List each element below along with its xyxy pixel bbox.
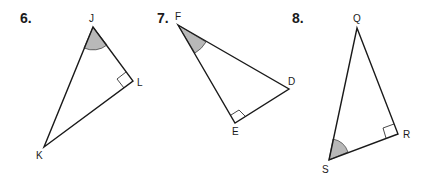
right-angle-l-marker — [117, 72, 126, 88]
problem-number-7: 7. — [157, 10, 169, 26]
triangle-jkl: 6. J L K — [20, 10, 143, 161]
vertex-label-e: E — [232, 126, 239, 137]
triangle-8-sides — [329, 28, 398, 160]
vertex-label-f: F — [175, 11, 181, 22]
triangle-qrs: 8. Q R S — [292, 10, 410, 175]
vertex-label-j: J — [89, 13, 94, 24]
vertex-label-k: K — [36, 150, 43, 161]
triangle-def: 7. F D E — [157, 10, 295, 137]
vertex-label-s: S — [322, 164, 329, 175]
figure-canvas: 6. J L K 7. F D E 8. Q R S — [0, 0, 430, 182]
problem-number-8: 8. — [292, 10, 304, 26]
vertex-label-q: Q — [353, 13, 361, 24]
vertex-label-l: L — [137, 77, 143, 88]
problem-number-6: 6. — [20, 10, 32, 26]
right-angle-e-marker — [231, 110, 246, 117]
vertex-label-r: R — [403, 129, 410, 140]
vertex-label-d: D — [288, 76, 295, 87]
